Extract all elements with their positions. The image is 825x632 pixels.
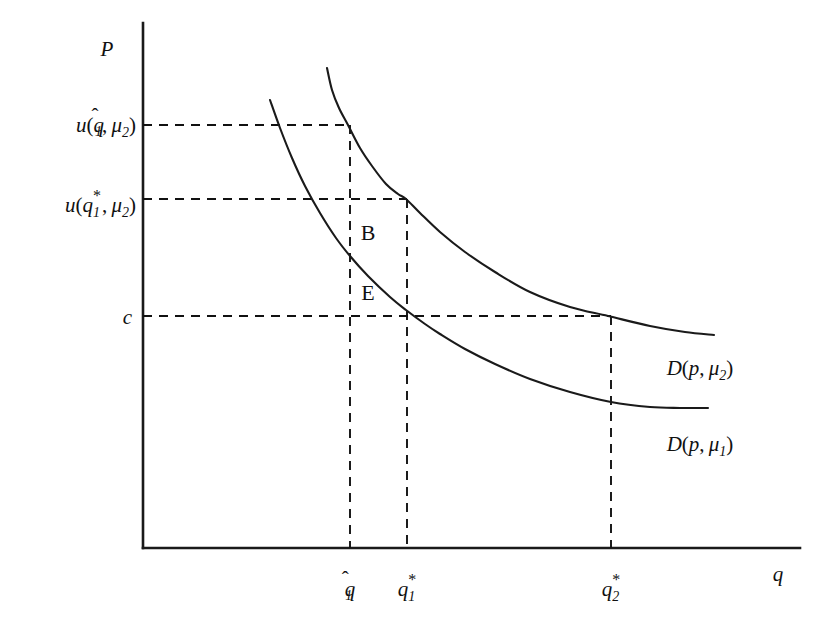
axis-labels-group: P q	[100, 37, 784, 586]
point-label-b: B	[361, 220, 376, 245]
demand-curve-low	[270, 100, 708, 408]
marked-points-group: BE	[361, 220, 376, 305]
curve-label-d-p-mu1: D(p, μ1)	[666, 432, 734, 459]
y-tick-label-u-qhat1-mu2: u(q̂1, μ2)	[76, 108, 136, 140]
y-tick-label-c: c	[123, 305, 133, 329]
x-tick-label-qstar2: q2*	[602, 571, 621, 604]
curve-label-d-p-mu2: D(p, μ2)	[666, 356, 734, 383]
axes-group	[143, 23, 800, 548]
x-tick-label-qhat1: q̂1	[341, 571, 356, 603]
guide-lines-group	[143, 125, 611, 548]
point-label-e: E	[361, 280, 374, 305]
economics-demand-diagram: P q u(q̂1, μ2) u(q1*, μ2) c q̂1 q1* q2* …	[0, 0, 825, 632]
x-tick-labels-group: q̂1 q1* q2*	[341, 571, 620, 604]
chart-canvas: P q u(q̂1, μ2) u(q1*, μ2) c q̂1 q1* q2* …	[0, 0, 825, 632]
x-tick-label-qstar1: q1*	[398, 571, 417, 604]
demand-curve-high	[327, 68, 714, 335]
y-tick-label-u-qstar1-mu2: u(q1*, μ2)	[65, 187, 136, 220]
demand-curves-group	[270, 68, 714, 408]
x-axis-label: q	[773, 562, 784, 586]
y-axis-label: P	[100, 37, 114, 61]
y-tick-labels-group: u(q̂1, μ2) u(q1*, μ2) c	[65, 108, 136, 329]
